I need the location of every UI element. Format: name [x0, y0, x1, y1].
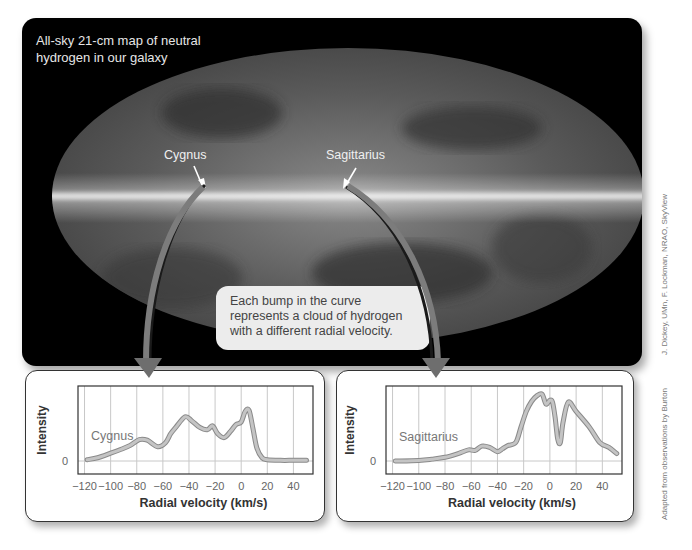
cygnus-map-label: Cygnus	[164, 148, 206, 162]
x-axis-label: Radial velocity (km/s)	[448, 496, 576, 510]
sagittarius-spectrum-chart: −120−100−80−60−40−20020400IntensityRadia…	[337, 371, 633, 521]
x-tick-label: −100	[406, 480, 431, 492]
x-tick-label: −20	[514, 480, 533, 492]
x-tick-label: −40	[488, 480, 507, 492]
y-axis-label: Intensity	[343, 405, 357, 455]
map-title-line-2: hydrogen in our galaxy	[36, 49, 256, 66]
x-tick-label: −120	[380, 480, 405, 492]
x-tick-label: −60	[154, 480, 173, 492]
y-tick-label: 0	[62, 455, 68, 467]
x-tick-label: 0	[238, 480, 244, 492]
x-tick-label: 20	[261, 480, 273, 492]
map-credit: J. Dickey, UMn, F. Lockman, NRAO, SkyVie…	[660, 194, 669, 355]
graph-credit: Adapted from observations by Burton	[660, 388, 669, 520]
x-tick-label: −20	[206, 480, 225, 492]
y-axis-label: Intensity	[35, 405, 49, 455]
cygnus-spectrum-chart: −120−100−80−60−40−20020400IntensityRadia…	[26, 371, 324, 521]
y-tick-label: 0	[370, 455, 376, 467]
x-tick-label: 40	[287, 480, 299, 492]
x-tick-label: 20	[570, 480, 582, 492]
callout-line-3: with a different radial velocity.	[230, 324, 416, 339]
x-tick-label: 40	[596, 480, 608, 492]
cygnus-spectrum-panel: −120−100−80−60−40−20020400IntensityRadia…	[25, 370, 325, 522]
callout-line-2: represents a cloud of hydrogen	[230, 309, 416, 324]
x-axis-label: Radial velocity (km/s)	[140, 496, 268, 510]
sagittarius-spectrum-panel: −120−100−80−60−40−20020400IntensityRadia…	[336, 370, 634, 522]
series-label: Sagittarius	[399, 430, 458, 444]
x-tick-label: −80	[436, 480, 455, 492]
x-tick-label: −40	[180, 480, 199, 492]
sky-map-panel: All-sky 21-cm map of neutral hydrogen in…	[22, 18, 642, 366]
map-title-line-1: All-sky 21-cm map of neutral	[36, 32, 256, 49]
x-tick-label: 0	[547, 480, 553, 492]
x-tick-label: −80	[127, 480, 146, 492]
spectrum-curve	[395, 394, 617, 461]
callout-line-1: Each bump in the curve	[230, 294, 416, 309]
sagittarius-map-label: Sagittarius	[326, 148, 385, 162]
map-title: All-sky 21-cm map of neutral hydrogen in…	[36, 32, 256, 66]
x-tick-label: −100	[98, 480, 123, 492]
x-tick-label: −60	[462, 480, 481, 492]
series-label: Cygnus	[91, 429, 133, 443]
x-tick-label: −120	[72, 480, 97, 492]
explanation-callout: Each bump in the curve represents a clou…	[216, 286, 430, 350]
